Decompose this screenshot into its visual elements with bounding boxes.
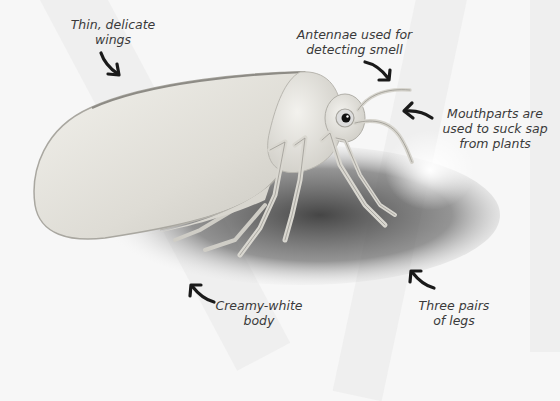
arrow-icon — [362, 58, 396, 86]
label-line: Three pairs — [412, 298, 496, 313]
label-line: Mouthparts are — [436, 106, 554, 121]
label-legs: Three pairs of legs — [412, 298, 496, 328]
eye-icon — [342, 114, 351, 123]
arrow-icon — [406, 266, 438, 292]
arrow-icon — [96, 50, 126, 82]
label-line: wings — [58, 32, 168, 47]
label-wings: Thin, delicate wings — [58, 17, 168, 47]
label-antennae: Antennae used for detecting smell — [292, 27, 417, 57]
label-line: Antennae used for — [292, 27, 417, 42]
label-line: detecting smell — [292, 42, 417, 57]
label-mouthparts: Mouthparts are used to suck sap from pla… — [436, 106, 554, 151]
arrow-icon — [400, 100, 436, 124]
arrow-icon — [186, 280, 218, 306]
label-line: used to suck sap — [436, 121, 554, 136]
label-line: body — [214, 313, 304, 328]
label-body: Creamy-white body — [214, 298, 304, 328]
label-line: Creamy-white — [214, 298, 304, 313]
label-line: of legs — [412, 313, 496, 328]
label-line: from plants — [436, 136, 554, 151]
label-line: Thin, delicate — [58, 17, 168, 32]
